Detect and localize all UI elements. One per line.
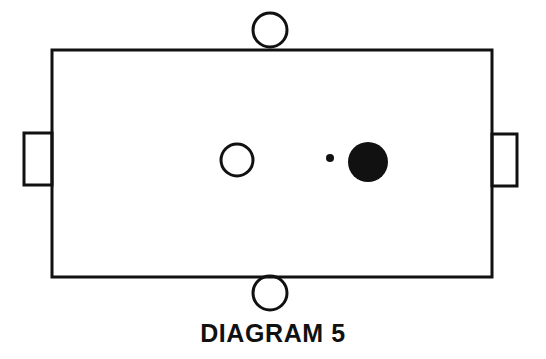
interior-open-circle (221, 144, 253, 176)
diagram-canvas: DIAGRAM 5 (0, 0, 546, 359)
bottom-open-circle (253, 276, 287, 310)
top-open-circle (253, 13, 287, 47)
interior-large-filled-circle (348, 142, 388, 182)
interior-small-filled-dot (326, 154, 334, 162)
diagram-vector-graphic (0, 0, 546, 359)
